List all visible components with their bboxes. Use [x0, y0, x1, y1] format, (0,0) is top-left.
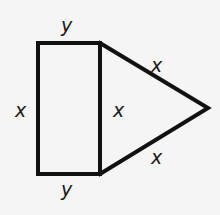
- label-left-side: x: [14, 99, 27, 121]
- label-lower-right-side: x: [150, 146, 163, 168]
- label-top-side: y: [60, 14, 73, 36]
- label-upper-right-side: x: [150, 54, 163, 76]
- composite-figure: y x x x x y: [0, 0, 220, 215]
- rectangle: [38, 43, 100, 174]
- label-bottom-side: y: [60, 178, 73, 200]
- label-shared-side: x: [112, 99, 125, 121]
